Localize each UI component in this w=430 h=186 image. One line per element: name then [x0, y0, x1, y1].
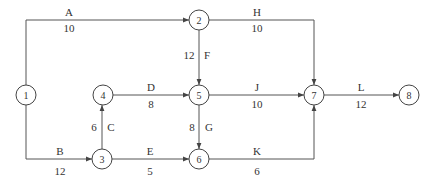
- node-3: 3: [92, 149, 112, 169]
- edge-d-activity: D: [147, 81, 155, 93]
- edge-f-activity: F: [204, 49, 210, 61]
- edge-k-activity: K: [253, 145, 261, 157]
- edge-f: 12 F: [184, 30, 211, 85]
- edge-f-duration: 12: [184, 49, 195, 61]
- edge-k-duration: 6: [254, 165, 260, 177]
- edge-j-activity: J: [255, 81, 260, 93]
- edge-h-activity: H: [253, 6, 261, 18]
- edge-l-duration: 12: [356, 98, 367, 110]
- node-6: 6: [189, 149, 209, 169]
- node-6-label: 6: [197, 154, 202, 165]
- edge-c: 6 C: [91, 105, 114, 149]
- edge-e-activity: E: [147, 145, 154, 157]
- node-7: 7: [304, 85, 324, 105]
- edge-g: 8 G: [189, 105, 213, 149]
- edge-c-activity: C: [107, 121, 114, 133]
- edge-b-duration: 12: [55, 165, 66, 177]
- edge-b-activity: B: [56, 145, 63, 157]
- edge-d-duration: 8: [148, 98, 154, 110]
- node-4-label: 4: [101, 90, 106, 101]
- edge-j-duration: 10: [252, 98, 264, 110]
- node-8-label: 8: [407, 90, 412, 101]
- node-7-label: 7: [312, 90, 317, 101]
- edge-g-duration: 8: [189, 121, 195, 133]
- node-1: 1: [16, 85, 36, 105]
- edge-l: L 12: [324, 81, 399, 110]
- node-3-label: 3: [100, 154, 105, 165]
- edge-a: A 10: [26, 6, 189, 85]
- edge-j: J 10: [209, 81, 304, 110]
- edge-h-duration: 10: [252, 22, 264, 34]
- node-5-label: 5: [197, 90, 202, 101]
- node-4: 4: [93, 85, 113, 105]
- edge-g-activity: G: [205, 121, 213, 133]
- edge-k: K 6: [209, 105, 314, 177]
- edge-c-duration: 6: [91, 121, 97, 133]
- network-diagram: A 10 B 12 6 C D 8 E 5 12 F 8 G H 10: [0, 0, 430, 186]
- edge-e-duration: 5: [147, 165, 153, 177]
- edge-l-activity: L: [358, 81, 365, 93]
- node-2-label: 2: [197, 15, 202, 26]
- edge-e: E 5: [112, 145, 189, 177]
- node-2: 2: [189, 10, 209, 30]
- node-5: 5: [189, 85, 209, 105]
- edge-b: B 12: [26, 105, 92, 177]
- node-1-label: 1: [24, 90, 29, 101]
- node-8: 8: [399, 85, 419, 105]
- edge-a-duration: 10: [64, 22, 76, 34]
- edge-a-activity: A: [65, 6, 73, 18]
- edge-d: D 8: [113, 81, 189, 110]
- edge-h: H 10: [209, 6, 314, 85]
